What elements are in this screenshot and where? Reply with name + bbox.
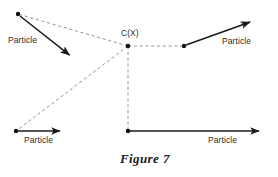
particle-label-bottom-left: Particle [24, 136, 53, 145]
dashed-edge-center-to-bottom-left [16, 46, 128, 131]
center-node-label: C(X) [121, 29, 138, 38]
node-dot-bottom-center [126, 129, 130, 133]
particle-label-top-left: Particle [8, 36, 37, 45]
figure-container: C(X) Particle Particle Particle Particle… [0, 0, 278, 177]
node-dot-right [182, 44, 186, 48]
node-dot-top-left [16, 12, 20, 16]
node-dot-bottom-left [14, 129, 18, 133]
node-dot-group [14, 12, 186, 133]
particle-label-bottom-center: Particle [208, 136, 237, 145]
figure-caption: Figure 7 [120, 152, 170, 165]
dashed-edge-group [16, 14, 184, 131]
node-dot-center-cx [126, 44, 131, 49]
particle-label-right-upper: Particle [222, 37, 251, 46]
